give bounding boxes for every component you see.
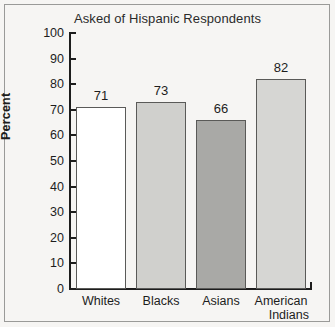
y-tick-label-0: 0 bbox=[20, 282, 64, 296]
category-label-asians: Asians bbox=[189, 294, 253, 308]
bar-value-whites: 71 bbox=[76, 88, 126, 103]
y-axis-label: Percent bbox=[0, 93, 13, 140]
bar-blacks[interactable] bbox=[136, 102, 186, 289]
y-tick-label-30: 30 bbox=[20, 205, 64, 219]
bar-value-blacks: 73 bbox=[136, 83, 186, 98]
category-label-american-indians: AmericanIndians bbox=[249, 294, 313, 322]
y-tick-label-100: 100 bbox=[20, 26, 64, 40]
bar-american-indians[interactable] bbox=[256, 79, 306, 289]
category-label-blacks: Blacks bbox=[129, 294, 193, 308]
chart-figure: Asked of Hispanic Respondents Percent 01… bbox=[0, 0, 335, 327]
y-tick-label-40: 40 bbox=[20, 180, 64, 194]
y-tick-label-80: 80 bbox=[20, 77, 64, 91]
bar-asians[interactable] bbox=[196, 120, 246, 289]
bar-value-american-indians: 82 bbox=[256, 60, 306, 75]
bar-whites[interactable] bbox=[76, 107, 126, 289]
bar-value-asians: 66 bbox=[196, 101, 246, 116]
y-tick-label-20: 20 bbox=[20, 231, 64, 245]
y-tick-label-10: 10 bbox=[20, 256, 64, 270]
chart-title: Asked of Hispanic Respondents bbox=[0, 11, 335, 26]
category-label-whites: Whites bbox=[69, 294, 133, 308]
y-tick-label-60: 60 bbox=[20, 128, 64, 142]
y-tick-label-50: 50 bbox=[20, 154, 64, 168]
y-tick-label-90: 90 bbox=[20, 52, 64, 66]
y-tick-label-70: 70 bbox=[20, 103, 64, 117]
